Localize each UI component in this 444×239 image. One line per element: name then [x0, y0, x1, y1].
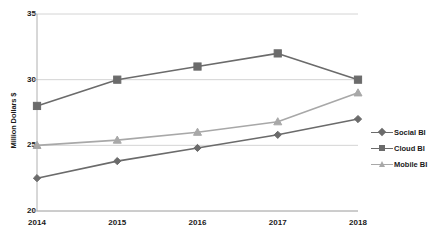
x-tick-label-2018: 2018	[349, 218, 367, 227]
legend-marker-diamond-icon	[378, 128, 386, 136]
legend-marker-triangle-icon	[379, 161, 385, 167]
x-tick-label-2016: 2016	[189, 218, 207, 227]
legend-key-square-icon	[371, 142, 393, 154]
legend-key-diamond-icon	[371, 126, 393, 138]
x-tick-label-2015: 2015	[108, 218, 126, 227]
legend-label: Mobile BI	[393, 160, 427, 169]
legend-label: Cloud BI	[393, 144, 425, 153]
x-tick-label-2017: 2017	[269, 218, 287, 227]
legend-item-mobile-bi[interactable]: Mobile BI	[371, 156, 444, 172]
chart-legend: Social BICloud BIMobile BI	[371, 124, 444, 172]
legend-item-social-bi[interactable]: Social BI	[371, 124, 444, 140]
legend-marker-square-icon	[379, 145, 385, 151]
line-chart: Million Dollars $ 20253035 2014201520162…	[0, 0, 444, 239]
x-axis-tick-labels: 20142015201620172018	[0, 0, 444, 239]
legend-key-triangle-icon	[371, 158, 393, 170]
legend-item-cloud-bi[interactable]: Cloud BI	[371, 140, 444, 156]
legend-label: Social BI	[393, 128, 426, 137]
x-tick-label-2014: 2014	[28, 218, 46, 227]
